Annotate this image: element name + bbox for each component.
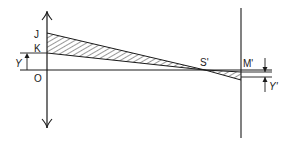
label-o: O [34,73,42,84]
label-k: K [34,43,41,54]
label-m-prime: M' [243,58,253,69]
label-j: J [34,29,39,40]
y-dimension [20,53,47,70]
label-s-prime: S' [200,57,209,68]
optics-diagram: J K Y O S' M' Y' [0,0,293,143]
arrow-up-icon [263,77,268,82]
label-y: Y [15,58,23,69]
arrow-up-icon [25,53,30,58]
label-y-prime: Y' [269,81,279,92]
